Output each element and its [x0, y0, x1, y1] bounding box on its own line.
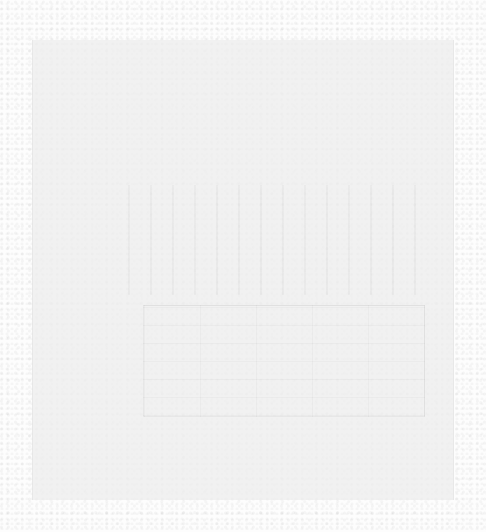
grid-region: [128, 185, 428, 295]
table-region: [143, 305, 425, 417]
document-page: [32, 40, 454, 500]
